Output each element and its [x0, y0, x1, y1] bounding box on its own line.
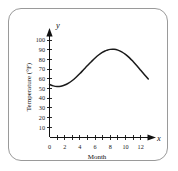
x-axis-title: Month [88, 153, 107, 161]
y-tick-label-100: 100 [36, 36, 45, 43]
y-axis-arrowhead [46, 28, 52, 37]
temperature-month-chart: 10 20 30 40 50 60 70 80 90 100 [9, 9, 169, 162]
x-tick-label-4: 4 [78, 143, 81, 150]
x-tick-label-10: 10 [122, 143, 128, 150]
x-tick-label-8: 8 [109, 143, 112, 150]
x-tick-label-2: 2 [63, 143, 66, 150]
y-tick-label-70: 70 [39, 65, 45, 72]
y-tick-label-80: 80 [39, 56, 45, 63]
x-tick-label-12: 12 [138, 143, 144, 150]
plot-area: 10 20 30 40 50 60 70 80 90 100 [9, 9, 169, 162]
y-tick-label-50: 50 [39, 85, 45, 92]
y-tick-label-10: 10 [39, 124, 45, 131]
temperature-curve [50, 49, 149, 86]
y-tick-label-40: 40 [39, 94, 45, 101]
y-tick-label-20: 20 [39, 114, 45, 121]
x-tick-label-6: 6 [94, 143, 97, 150]
y-tick-label-60: 60 [39, 75, 45, 82]
y-axis-title: Temperature (°F) [25, 62, 33, 111]
y-axis-variable-label: y [55, 20, 60, 30]
x-tick-label-0: 0 [48, 143, 51, 150]
figure-frame: 10 20 30 40 50 60 70 80 90 100 [8, 8, 168, 161]
y-tick-label-90: 90 [39, 46, 45, 53]
x-axis-arrowhead [148, 134, 157, 140]
x-axis-variable-label: x [156, 133, 161, 143]
y-tick-label-30: 30 [39, 104, 45, 111]
